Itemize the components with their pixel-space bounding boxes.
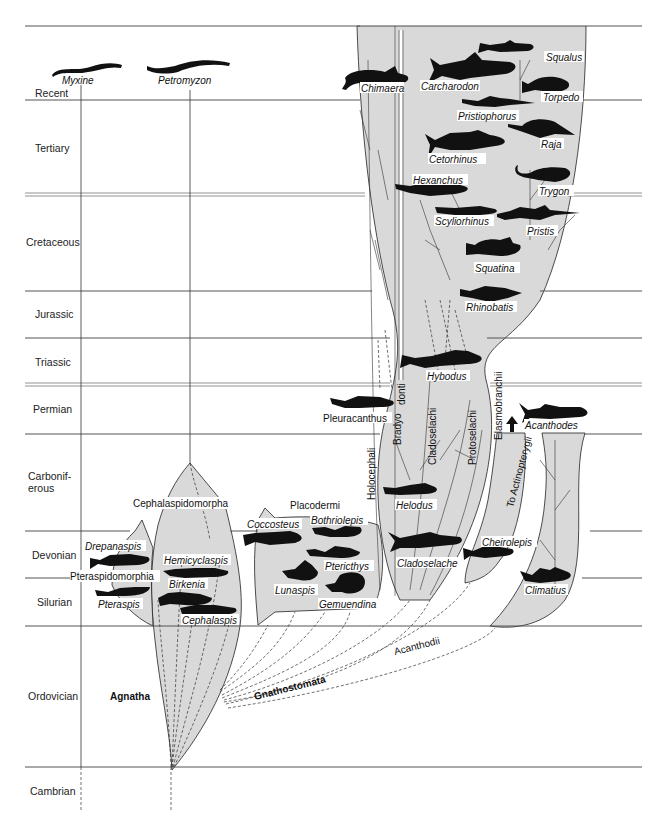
label-carcharodon: Carcharodon bbox=[421, 81, 479, 92]
label-petromyzon: Petromyzon bbox=[158, 75, 212, 86]
label-helodus: Helodus bbox=[396, 500, 433, 511]
label-agnatha: Agnatha bbox=[110, 691, 150, 702]
phylogeny-diagram: Recent Tertiary Cretaceous Jurassic Tria… bbox=[0, 0, 670, 829]
label-squatina: Squatina bbox=[475, 263, 515, 274]
label-cheirolepis: Cheirolepis bbox=[482, 537, 532, 548]
period-carboniferous-line2: erous bbox=[28, 482, 54, 494]
label-hybodus: Hybodus bbox=[427, 371, 466, 382]
label-bradyodonti-part2: donti bbox=[396, 383, 407, 405]
petromyzon-icon bbox=[147, 60, 230, 73]
label-hexanchus: Hexanchus bbox=[413, 175, 463, 186]
label-placodermi: Placodermi bbox=[290, 500, 340, 511]
actinopterygii-arrow-icon bbox=[506, 416, 518, 432]
period-labels: Recent Tertiary Cretaceous Jurassic Tria… bbox=[26, 87, 80, 797]
label-gnathostomata: Gnathostomata bbox=[253, 673, 327, 702]
label-bothriolepis: Bothriolepis bbox=[311, 515, 363, 526]
label-drepanaspis: Drepanaspis bbox=[85, 541, 141, 552]
label-pristiophorus: Pristiophorus bbox=[458, 111, 516, 122]
label-gemuendina: Gemuendina bbox=[319, 599, 377, 610]
period-silurian: Silurian bbox=[37, 596, 72, 608]
label-cladoselachi: Cladoselachi bbox=[427, 408, 438, 465]
label-acanthodii: Acanthodii bbox=[393, 635, 441, 657]
period-cretaceous: Cretaceous bbox=[26, 236, 80, 248]
period-cambrian: Cambrian bbox=[30, 785, 76, 797]
label-pterichthys: Ptericthys bbox=[325, 561, 369, 572]
label-climatius: Climatius bbox=[525, 585, 566, 596]
pleuracanthus-icon bbox=[330, 396, 394, 408]
period-triassic: Triassic bbox=[35, 356, 71, 368]
label-protoselachi: Protoselachi bbox=[467, 410, 478, 465]
label-raja: Raja bbox=[541, 139, 562, 150]
period-devonian: Devonian bbox=[32, 549, 77, 561]
label-elasmobranchii: Elasmobranchii bbox=[493, 372, 504, 440]
label-myxine: Myxine bbox=[62, 75, 94, 86]
label-cladoselache: Cladoselache bbox=[397, 558, 458, 569]
label-pteraspidomorphia: Pteraspidomorphia bbox=[70, 571, 154, 582]
label-cetorhinus: Cetorhinus bbox=[429, 154, 477, 165]
period-tertiary: Tertiary bbox=[35, 142, 70, 154]
label-pristis: Pristis bbox=[527, 226, 554, 237]
label-chimaera: Chimaera bbox=[361, 83, 405, 94]
label-trygon: Trygon bbox=[539, 186, 570, 197]
label-pleuracanthus: Pleuracanthus bbox=[323, 413, 387, 424]
label-bradyodonti-part1: Bradyo bbox=[392, 413, 403, 445]
label-scyliorhinus: Scyliorhinus bbox=[435, 216, 489, 227]
period-jurassic: Jurassic bbox=[35, 308, 74, 320]
label-hemicyclaspis: Hemicyclaspis bbox=[164, 555, 228, 566]
period-ordovician: Ordovician bbox=[28, 690, 78, 702]
label-holocephali: Holocephali bbox=[366, 448, 377, 500]
label-squalus: Squalus bbox=[546, 52, 582, 63]
label-cephalaspis: Cephalaspis bbox=[182, 615, 237, 626]
label-coccosteus: Coccosteus bbox=[247, 519, 299, 530]
period-permian: Permian bbox=[33, 403, 72, 415]
label-pteraspis: Pteraspis bbox=[98, 599, 140, 610]
period-recent: Recent bbox=[35, 87, 68, 99]
label-cephalaspidomorpha: Cephalaspidomorpha bbox=[133, 498, 229, 509]
label-acanthodes: Acanthodes bbox=[524, 420, 578, 431]
label-birkenia: Birkenia bbox=[169, 579, 206, 590]
label-lunaspis: Lunaspis bbox=[275, 585, 315, 596]
label-rhinobatis: Rhinobatis bbox=[466, 302, 513, 313]
period-carboniferous-line1: Carbonif- bbox=[28, 470, 72, 482]
label-torpedo: Torpedo bbox=[543, 92, 580, 103]
